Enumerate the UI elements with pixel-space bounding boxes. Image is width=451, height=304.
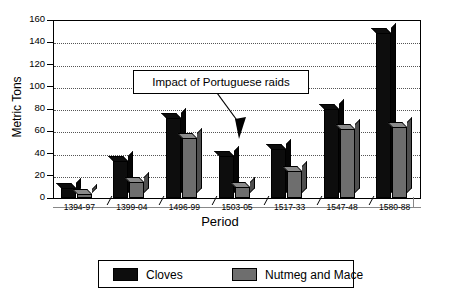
x-axis-label-1517-33: 1517-33 (264, 202, 316, 212)
bar-nutmeg-1503-05 (235, 187, 250, 198)
bar-cloves-1496-99 (166, 118, 181, 198)
bar-cloves-1503-05 (219, 156, 234, 198)
x-axis-title-text: Period (201, 214, 239, 229)
bar-nutmeg-1394-97 (77, 194, 92, 198)
chart-figure: Metric Tons 020406080100120140160 1394-9… (0, 0, 451, 304)
annotation-box: Impact of Portuguese raids (133, 70, 309, 94)
x-axis-label-1496-99: 1496-99 (158, 202, 210, 212)
x-axis-label-1580-88: 1580-88 (369, 202, 421, 212)
bar-cloves-1517-33 (271, 149, 286, 198)
bar-cloves-1580-88 (376, 33, 391, 198)
x-axis-label-1547-48: 1547-48 (316, 202, 368, 212)
bar-nutmeg-1580-88 (392, 127, 407, 198)
legend-item-nutmeg: Nutmeg and Mace (232, 266, 363, 283)
bar-cloves-1547-48 (324, 109, 339, 198)
bar-nutmeg-1547-48 (340, 129, 355, 198)
bar-nutmeg-1496-99 (182, 138, 197, 198)
x-axis-title: Period (150, 214, 290, 229)
x-axis-label-1503-05: 1503-05 (211, 202, 263, 212)
legend-label-cloves: Cloves (146, 268, 183, 282)
legend-swatch-nutmeg (232, 268, 257, 281)
chart-legend: Cloves Nutmeg and Mace (98, 260, 354, 288)
gridline (54, 66, 420, 67)
x-axis-label-1394-97: 1394-97 (53, 202, 105, 212)
legend-swatch-cloves (113, 268, 138, 281)
legend-item-cloves: Cloves (113, 266, 183, 283)
bar-nutmeg-1517-33 (287, 171, 302, 198)
annotation-arrow-icon (215, 93, 251, 143)
x-axis-label-1399-04: 1399-04 (106, 202, 158, 212)
y-axis-title-text: Metric Tons (10, 76, 24, 137)
legend-label-nutmeg: Nutmeg and Mace (265, 268, 363, 282)
bar-nutmeg-1399-04 (129, 182, 144, 198)
y-axis-title: Metric Tons (6, 52, 28, 162)
gridline (54, 43, 420, 44)
annotation-text: Impact of Portuguese raids (152, 76, 289, 88)
